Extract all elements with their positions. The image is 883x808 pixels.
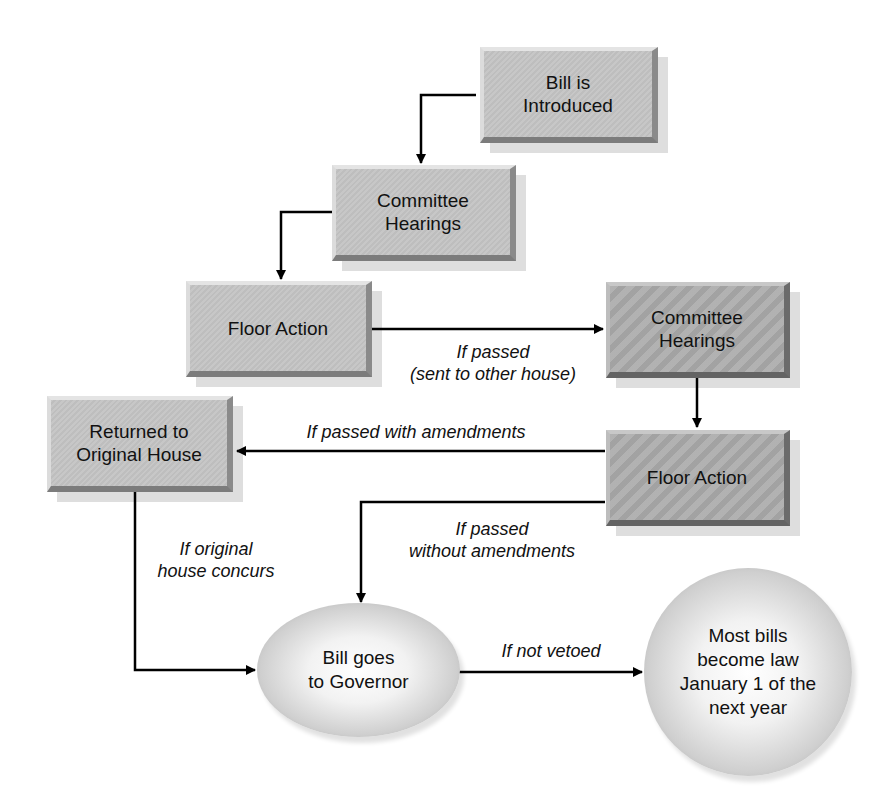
edge-label-sent-to-other-house: If passed (sent to other house) bbox=[386, 341, 600, 385]
node-committee-hearings-1: Committee Hearings bbox=[332, 165, 516, 261]
arrow-introduced-to-committee bbox=[421, 95, 476, 163]
node-committee-hearings-2: Committee Hearings bbox=[606, 282, 790, 378]
node-label: Most bills become law January 1 of the n… bbox=[680, 624, 816, 720]
edge-label-without-amendments: If passed without amendments bbox=[392, 518, 592, 562]
node-label: Floor Action bbox=[647, 466, 747, 489]
flowchart-canvas: Bill is Introduced Committee Hearings Fl… bbox=[0, 0, 883, 808]
node-label: Returned to Original House bbox=[76, 420, 202, 466]
node-bill-introduced: Bill is Introduced bbox=[480, 47, 658, 143]
node-label: Committee Hearings bbox=[377, 189, 469, 235]
node-bills-become-law: Most bills become law January 1 of the n… bbox=[644, 568, 852, 776]
node-bill-goes-to-governor: Bill goes to Governor bbox=[257, 603, 460, 737]
node-floor-action-1: Floor Action bbox=[186, 281, 372, 377]
edge-label-original-house-concurs: If original house concurs bbox=[146, 538, 286, 582]
node-label: Committee Hearings bbox=[651, 306, 743, 352]
arrow-committee-to-floor bbox=[281, 212, 332, 279]
node-label: Bill goes to Governor bbox=[308, 646, 408, 694]
node-returned-to-original-house: Returned to Original House bbox=[47, 396, 233, 492]
node-label: Floor Action bbox=[228, 317, 328, 340]
edge-label-not-vetoed: If not vetoed bbox=[486, 640, 616, 662]
edge-label-with-amendments: If passed with amendments bbox=[296, 421, 536, 443]
node-label: Bill is Introduced bbox=[523, 71, 613, 117]
node-floor-action-2: Floor Action bbox=[606, 430, 790, 526]
